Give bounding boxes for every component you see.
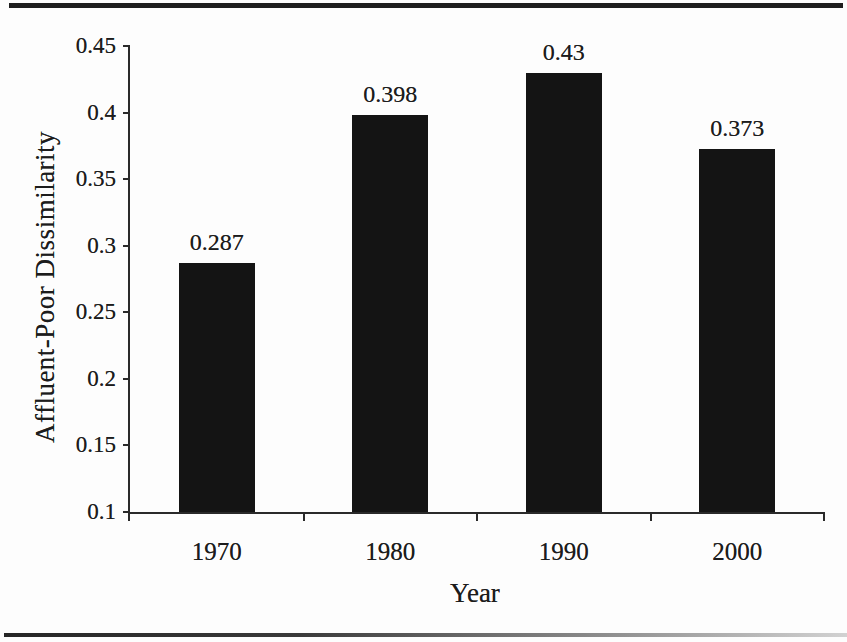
y-tick-label: 0.4 <box>87 100 116 126</box>
x-category-label-2000: 2000 <box>712 538 762 566</box>
y-tick <box>123 245 130 247</box>
y-tick-label: 0.35 <box>76 166 116 192</box>
x-category-label-1980: 1980 <box>365 538 415 566</box>
plot-area: 0.450.40.350.30.250.20.150.10.28719700.3… <box>128 46 824 514</box>
x-category-label-1990: 1990 <box>539 538 589 566</box>
x-tick <box>823 512 825 521</box>
y-tick <box>123 112 130 114</box>
bar-2000: 0.373 <box>699 149 775 512</box>
x-tick <box>476 512 478 521</box>
y-tick-label: 0.15 <box>76 432 116 458</box>
y-tick-label: 0.1 <box>87 499 116 525</box>
y-tick <box>123 378 130 380</box>
bar-value-label: 0.287 <box>190 229 244 256</box>
y-tick-label: 0.3 <box>87 233 116 259</box>
bottom-rule-divider <box>4 633 847 637</box>
y-tick <box>123 444 130 446</box>
bar-value-label: 0.373 <box>710 115 764 142</box>
y-tick-label: 0.2 <box>87 366 116 392</box>
bar-value-label: 0.43 <box>543 39 585 66</box>
top-rule-divider <box>9 3 843 8</box>
x-category-label-1970: 1970 <box>192 538 242 566</box>
bar-1970: 0.287 <box>179 263 255 512</box>
y-tick <box>123 45 130 47</box>
x-tick <box>303 512 305 521</box>
y-axis-title: Affluent-Poor Dissimilarity <box>30 131 61 443</box>
x-axis-title: Year <box>128 578 822 609</box>
axis-foot-tick <box>128 512 130 521</box>
bar-1980: 0.398 <box>352 115 428 512</box>
y-tick <box>123 311 130 313</box>
y-tick <box>123 178 130 180</box>
y-tick-label: 0.45 <box>76 33 116 59</box>
y-tick-label: 0.25 <box>76 299 116 325</box>
bar-value-label: 0.398 <box>363 81 417 108</box>
bar-1990: 0.43 <box>526 73 602 512</box>
scanned-book-figure: Affluent-Poor Dissimilarity 0.450.40.350… <box>0 0 847 642</box>
x-tick <box>650 512 652 521</box>
